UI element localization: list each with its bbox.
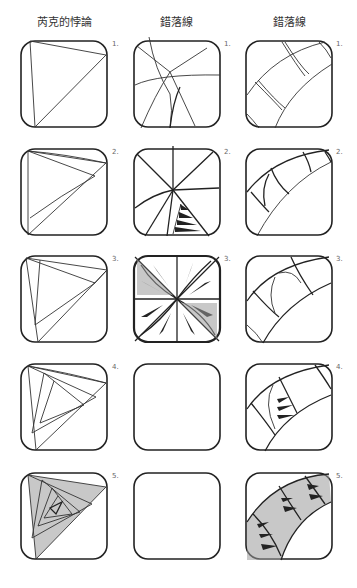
- step-number: 5.: [336, 472, 343, 480]
- paradox-step-2-drawing: [20, 148, 108, 236]
- blank-tile-drawing: [133, 363, 221, 451]
- tile-cadent-b-step-5: [245, 472, 333, 560]
- cadent-a-step-2-drawing: [133, 148, 221, 236]
- step-number: 4.: [336, 363, 343, 371]
- tile-cadent-b-step-4: [245, 363, 333, 451]
- cadent-a-step-3-drawing: [133, 255, 221, 343]
- step-number: 1.: [336, 40, 343, 48]
- step-number: 2.: [224, 148, 231, 156]
- paradox-step-1-drawing: [20, 40, 108, 128]
- step-number: 2.: [112, 148, 119, 156]
- tile-cadent-b-step-1: [245, 40, 333, 128]
- paradox-step-5-drawing: [20, 472, 108, 560]
- tile-cadent-a-step-2: [133, 148, 221, 236]
- paradox-step-4-drawing: [20, 363, 108, 451]
- step-number: 5.: [112, 472, 119, 480]
- step-number: 4.: [112, 363, 119, 371]
- cadent-b-step-5-drawing: [245, 472, 333, 560]
- tile-cadent-b-step-3: [245, 255, 333, 343]
- tile-blank-step-5: [133, 472, 221, 560]
- column-title-cadent-lines-1: 錯落線: [121, 13, 231, 29]
- tile-paradox-step-2: [20, 148, 108, 236]
- tile-paradox-step-3: [20, 255, 108, 343]
- step-number: 3.: [336, 255, 343, 263]
- step-number: 1.: [112, 40, 119, 48]
- step-number: 2.: [336, 148, 343, 156]
- cadent-b-step-3-drawing: [245, 255, 333, 343]
- step-number: 1.: [224, 40, 231, 48]
- column-title-rixty-paradox: 芮克的悖論: [9, 13, 119, 29]
- cadent-b-step-2-drawing: [245, 148, 333, 236]
- cadent-b-step-1-drawing: [245, 40, 333, 128]
- paradox-step-3-drawing: [20, 255, 108, 343]
- cadent-a-step-1-drawing: [133, 40, 221, 128]
- step-number: 3.: [224, 255, 231, 263]
- column-title-cadent-lines-2: 錯落線: [234, 13, 344, 29]
- tile-cadent-a-step-1: [133, 40, 221, 128]
- tile-blank-step-4: [133, 363, 221, 451]
- tile-paradox-step-4: [20, 363, 108, 451]
- blank-tile-drawing: [133, 472, 221, 560]
- cadent-b-step-4-drawing: [245, 363, 333, 451]
- tile-cadent-b-step-2: [245, 148, 333, 236]
- tile-paradox-step-1: [20, 40, 108, 128]
- tile-cadent-a-step-3: [133, 255, 221, 343]
- step-number: 3.: [112, 255, 119, 263]
- tile-paradox-step-5: [20, 472, 108, 560]
